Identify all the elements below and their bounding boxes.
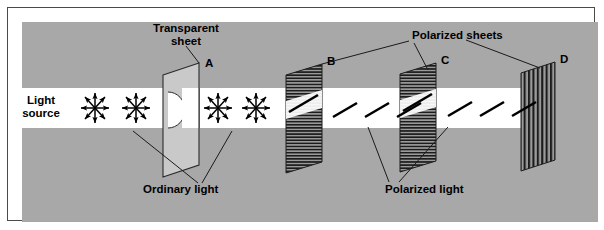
light-source-label: Light source <box>10 94 72 120</box>
transparent-sheet-label: Transparent sheet <box>132 22 240 48</box>
sheet-label-b: B <box>327 55 335 68</box>
light-beam-band <box>14 88 543 128</box>
transparent-sheet-label-line1: Transparent <box>132 22 240 35</box>
transparent-sheet-label-line2: sheet <box>132 35 240 48</box>
ordinary-light-label: Ordinary light <box>143 183 218 196</box>
sheet-label-d: D <box>560 53 568 66</box>
sheet-label-a: A <box>205 57 213 70</box>
sheet-label-c: C <box>441 54 449 67</box>
light-source-label-line1: Light <box>10 94 72 107</box>
light-source-label-line2: source <box>10 107 72 120</box>
polarized-light-label: Polarized light <box>385 183 464 196</box>
polarization-diagram: Transparent sheet Light source Ordinary … <box>0 0 604 230</box>
polarized-sheets-label: Polarized sheets <box>412 29 503 42</box>
